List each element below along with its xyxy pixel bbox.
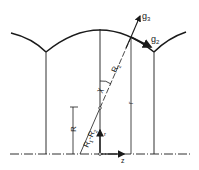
label-z: z [121, 157, 125, 164]
origin-point [99, 153, 102, 156]
left-arc [11, 33, 46, 52]
label-g2: g2 [151, 34, 160, 45]
label-R2: R2 [110, 62, 123, 74]
chi-angle-arc [100, 81, 111, 84]
toroidal-geometry-diagram: g3 g2 R2 χ r R R1-R2 r z [0, 0, 199, 170]
label-r-small: r [104, 131, 106, 137]
g2-vector [131, 37, 151, 47]
label-g3: g3 [142, 11, 151, 22]
label-R: R [69, 126, 78, 132]
g3-vector [131, 16, 140, 37]
inner-center-point [99, 107, 102, 110]
g3-stub [126, 37, 131, 48]
label-r-right: r [127, 101, 134, 104]
